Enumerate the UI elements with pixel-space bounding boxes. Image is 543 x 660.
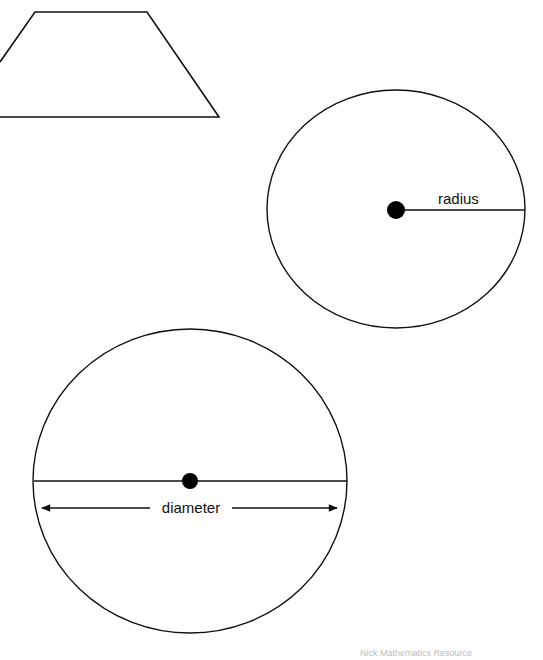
footer-credit: Nick Mathematics Resource: [360, 648, 472, 658]
trapezoid-shape: [0, 12, 219, 117]
center-point: [387, 201, 405, 219]
radius-circle: radius: [267, 90, 525, 328]
center-point: [182, 473, 198, 489]
diameter-label: diameter: [162, 499, 220, 516]
radius-label: radius: [438, 190, 479, 207]
diameter-circle: diameter: [33, 329, 347, 633]
geometry-diagram: radius diameter: [0, 0, 543, 660]
